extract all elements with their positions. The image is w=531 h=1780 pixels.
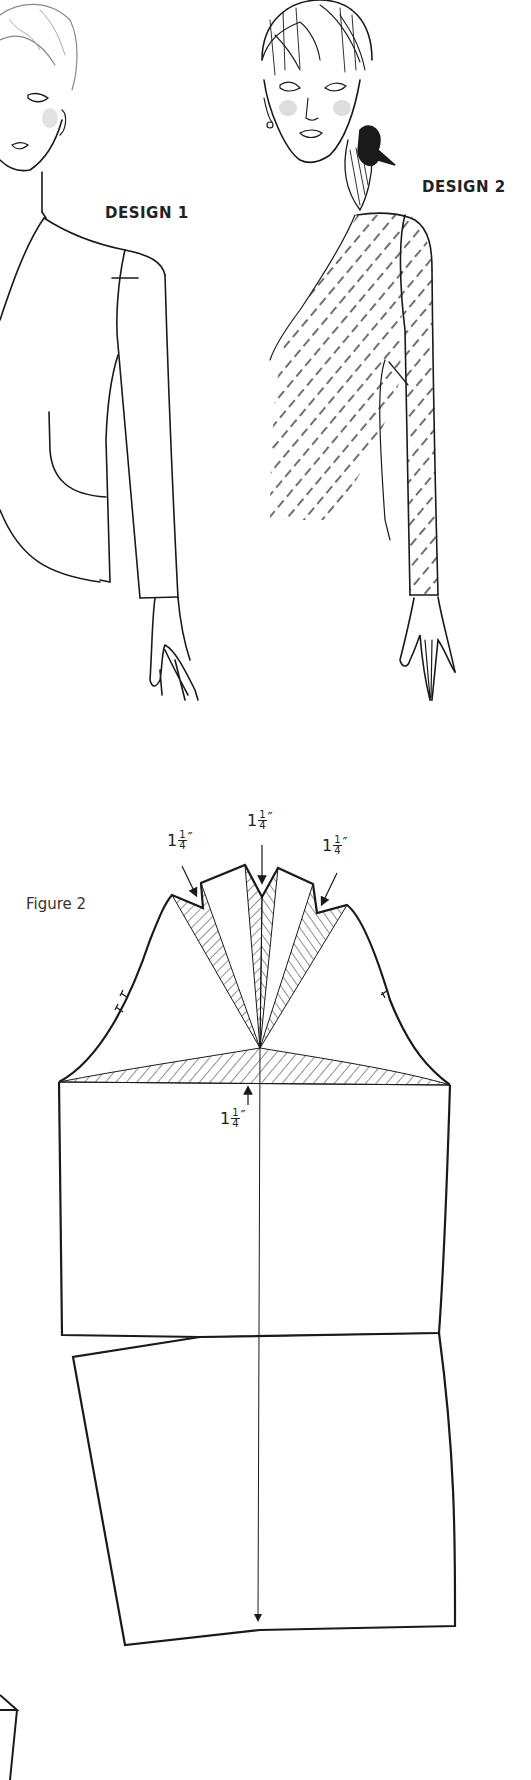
notches (115, 990, 388, 1012)
figure-2-label: Figure 2 (26, 895, 86, 913)
measure-fraction: 1 4 (333, 835, 341, 856)
sleeve-pattern-diagram (0, 0, 531, 1780)
measure-fraction: 1 4 (258, 810, 266, 831)
measure-unit: ″ (343, 834, 348, 850)
cap-height-measurement: 1 1 4 ″ (220, 1108, 246, 1129)
partial-next-figure (0, 1695, 17, 1780)
measure-denominator: 4 (232, 1119, 238, 1129)
measure-fraction: 1 4 (231, 1108, 239, 1129)
cap-darts (59, 865, 450, 1085)
measure-denominator: 4 (334, 846, 340, 856)
grainline (258, 1048, 260, 1618)
measure-fraction: 1 4 (178, 830, 186, 851)
left-dart-wedge (172, 883, 260, 1048)
cap-height-wedge (59, 1048, 450, 1085)
measure-whole: 1 (220, 1109, 230, 1128)
measure-denominator: 4 (179, 841, 185, 851)
right-dart-arrow (323, 873, 337, 902)
elbow-line (200, 1333, 439, 1337)
measure-whole: 1 (247, 811, 257, 830)
measure-whole: 1 (167, 831, 177, 850)
front-notch (381, 990, 388, 998)
left-dart-arrow (182, 866, 195, 893)
left-dart-measurement: 1 1 4 ″ (167, 830, 193, 851)
center-dart-measurement: 1 1 4 ″ (247, 810, 273, 831)
measure-unit: ″ (268, 809, 273, 825)
measure-whole: 1 (322, 836, 332, 855)
measure-unit: ″ (241, 1107, 246, 1123)
back-notch-1 (120, 990, 128, 998)
measure-denominator: 4 (259, 821, 265, 831)
measure-unit: ″ (188, 829, 193, 845)
right-dart-measurement: 1 1 4 ″ (322, 835, 348, 856)
